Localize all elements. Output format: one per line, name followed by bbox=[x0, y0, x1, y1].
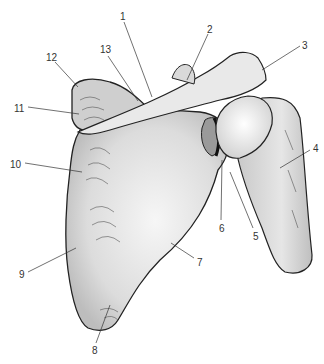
label-4: 4 bbox=[313, 144, 319, 154]
label-8: 8 bbox=[92, 346, 98, 356]
label-1: 1 bbox=[120, 12, 126, 22]
label-5: 5 bbox=[253, 232, 259, 242]
label-9: 9 bbox=[19, 270, 25, 280]
label-12: 12 bbox=[46, 53, 57, 63]
label-2: 2 bbox=[207, 25, 213, 35]
coracoid-process bbox=[172, 65, 195, 85]
label-3: 3 bbox=[302, 41, 308, 51]
label-6: 6 bbox=[219, 224, 225, 234]
label-10: 10 bbox=[10, 160, 21, 170]
label-13: 13 bbox=[100, 45, 111, 55]
label-11: 11 bbox=[14, 104, 24, 114]
scapula-illustration: 1 2 3 4 5 6 7 8 9 10 11 12 13 bbox=[0, 0, 324, 364]
label-7: 7 bbox=[197, 258, 203, 268]
